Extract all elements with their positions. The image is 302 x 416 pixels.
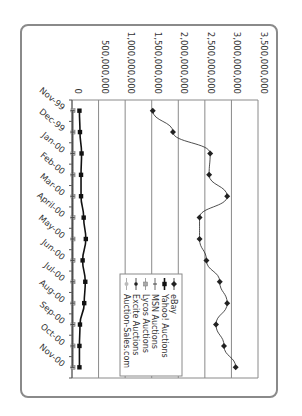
legend-label: Excite Auctions (131, 294, 140, 355)
legend-label: Auction-Sales.com (122, 294, 131, 368)
diamond-marker (197, 215, 203, 221)
diamond-marker (217, 279, 223, 285)
series-yahoo-auctions (77, 108, 88, 369)
square-marker (84, 237, 88, 241)
value-axis-tick-label: 2,000,000,000 (179, 32, 189, 94)
square-marker (77, 108, 81, 112)
square-marker (78, 130, 82, 134)
square-marker (83, 280, 87, 284)
square-marker (77, 365, 81, 369)
value-axis-tick-label: 2,500,000,000 (206, 32, 216, 94)
square-marker (78, 322, 82, 326)
square-marker (80, 258, 84, 262)
category-axis-label: Nov-00 (38, 342, 68, 369)
square-marker (81, 215, 85, 219)
diamond-marker (233, 364, 239, 370)
value-axis-tick-label: 3,500,000,000 (259, 32, 269, 94)
diamond-marker (150, 108, 156, 114)
legend: eBayYahoo! AuctionsMSN AuctionsLycos Auc… (120, 274, 182, 376)
square-marker (82, 301, 86, 305)
value-axis-tick-label: 500,000,000 (100, 40, 110, 94)
diamond-marker (224, 300, 230, 306)
square-marker (79, 151, 83, 155)
diamond-marker (170, 129, 176, 135)
diamond-marker (213, 322, 219, 328)
circle-marker (134, 282, 138, 286)
category-axis-label: Dec-99 (37, 106, 67, 133)
value-axis-tick-label: 1,000,000,000 (126, 32, 136, 94)
rotated-line-chart: 0500,000,0001,000,000,0001,500,000,0002,… (0, 0, 302, 416)
square-marker (162, 282, 166, 286)
value-axis-tick-label: 3,000,000,000 (232, 32, 242, 94)
diamond-marker (206, 172, 212, 178)
diamond-marker (224, 193, 230, 199)
series-msn-auctions (71, 111, 75, 368)
category-axis-label: Jun-00 (39, 236, 67, 262)
legend-label: Yahoo! Auctions (160, 293, 169, 358)
diamond-marker (203, 257, 209, 263)
square-marker (79, 173, 83, 177)
legend-label: MSN Auctions (150, 294, 159, 349)
value-axis-tick-label: 1,500,000,000 (153, 32, 163, 94)
legend-label: eBay (169, 294, 178, 314)
legend-label: Lycos Auctions (141, 294, 150, 353)
square-marker (77, 344, 81, 348)
diamond-marker (207, 150, 213, 156)
category-axis-label: Sep-00 (38, 299, 67, 326)
square-marker (144, 282, 148, 286)
square-marker (79, 194, 83, 198)
diamond-marker (221, 343, 227, 349)
value-axis-tick-label: 0 (73, 89, 83, 94)
diamond-marker (197, 236, 203, 242)
circle-marker (125, 282, 129, 286)
